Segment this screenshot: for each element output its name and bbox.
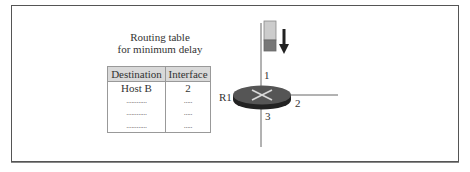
interface-label-3: 3 xyxy=(265,110,271,122)
router-label: R1 xyxy=(219,91,232,103)
packet-icon xyxy=(264,21,276,51)
arrow-down-icon xyxy=(279,29,289,54)
interface-label-2: 2 xyxy=(295,97,301,109)
interface-label-1: 1 xyxy=(264,69,270,81)
packet-bottom xyxy=(264,40,276,51)
network-diagram xyxy=(0,0,470,172)
packet-top xyxy=(264,21,276,40)
router-icon xyxy=(233,86,291,110)
